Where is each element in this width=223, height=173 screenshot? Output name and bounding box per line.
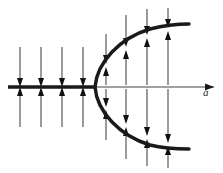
right-arrow-up-inner-0-head	[103, 67, 109, 76]
right-arrow-down-inner-1-head	[123, 115, 129, 124]
right-arrow-down-inner-0-head	[103, 98, 109, 107]
right-arrow-down-inner-3-head	[165, 134, 171, 143]
axis-label-a: a	[203, 86, 209, 98]
right-arrow-up-inner-2-head	[144, 38, 150, 47]
parabola-upper-branch	[95, 24, 189, 87]
parabola-lower-branch	[95, 87, 189, 149]
bifurcation-diagram-svg: a	[0, 0, 223, 173]
right-arrow-up-inner-1-head	[123, 50, 129, 59]
right-arrow-up-inner-3-head	[165, 31, 171, 40]
right-arrow-down-inner-2-head	[144, 127, 150, 136]
bifurcation-diagram-figure: a Saddle-node bifurcation phase portrait	[0, 0, 223, 173]
